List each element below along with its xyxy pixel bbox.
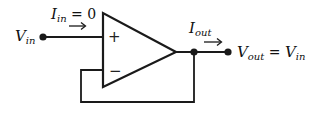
vout-label: Vout = Vin (237, 43, 305, 62)
opamp-minus-sign: − (109, 62, 122, 80)
iin-label: Iin = 0 (50, 5, 96, 24)
voltage-follower-diagram: + − Vin Iin = 0 Iout Vout = Vin (0, 0, 311, 113)
input-node-dot (39, 33, 46, 40)
iout-arrow-icon (204, 39, 222, 46)
vin-label: Vin (15, 27, 35, 46)
iout-label: Iout (188, 19, 212, 38)
output-node-dot (224, 48, 231, 55)
opamp-plus-sign: + (108, 28, 121, 46)
feedback-wire (81, 52, 194, 102)
iin-arrow-icon (69, 23, 86, 30)
